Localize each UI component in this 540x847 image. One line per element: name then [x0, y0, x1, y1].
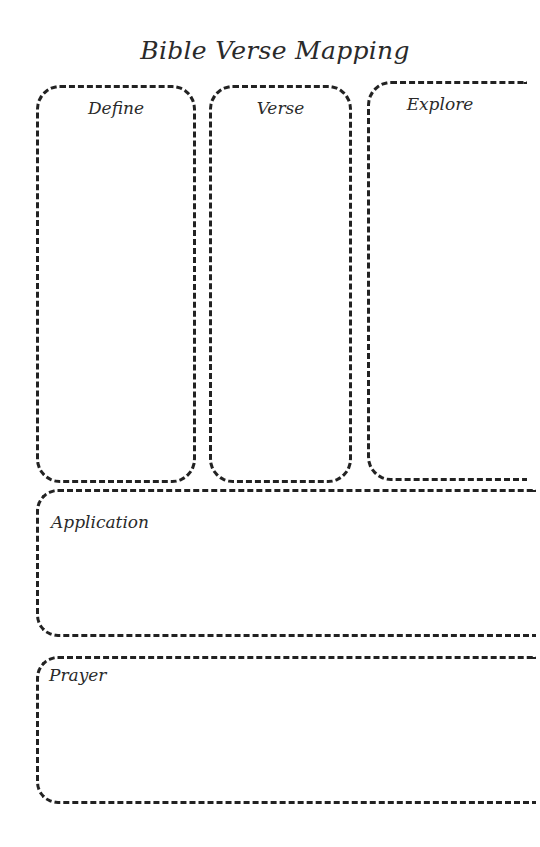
page-title: Bible Verse Mapping [0, 36, 540, 65]
define-box[interactable]: Define [36, 85, 196, 483]
prayer-box[interactable]: Prayer [36, 656, 536, 804]
explore-box[interactable]: Explore [367, 81, 527, 481]
explore-label: Explore [370, 94, 510, 114]
define-label: Define [39, 98, 193, 118]
prayer-label: Prayer [49, 665, 107, 685]
application-box[interactable]: Application [36, 489, 536, 637]
application-label: Application [51, 512, 149, 532]
verse-label: Verse [212, 98, 349, 118]
verse-box[interactable]: Verse [209, 85, 352, 483]
